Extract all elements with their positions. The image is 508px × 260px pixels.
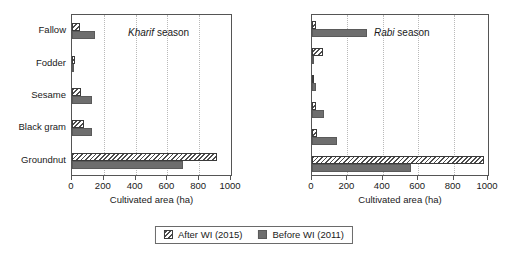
bar-before-wi — [72, 31, 95, 39]
bar-before-wi — [312, 137, 337, 145]
bar-before-wi — [312, 164, 411, 172]
y-tick-label: Black gram — [18, 123, 66, 133]
bar-before-wi — [312, 110, 324, 118]
bar-before-wi — [72, 128, 92, 136]
x-axis-kharif: 0 200 400 600 800 1000 Cultivated area (… — [71, 176, 232, 206]
panel-container: Fallow Fodder Sesame Black gram Groundnu… — [0, 0, 508, 215]
x-tick-label: 0 — [308, 181, 313, 191]
bar-before-wi — [312, 83, 316, 91]
x-tick-label: 400 — [127, 181, 143, 191]
plot-area-kharif: Kharif season — [71, 14, 232, 176]
plot-area-rabi: Rabi season — [311, 14, 489, 176]
y-tick-label: Groundnut — [21, 155, 66, 165]
bar-before-wi — [72, 161, 183, 169]
x-tick-label: 1000 — [219, 181, 240, 191]
x-axis-title: Cultivated area (ha) — [71, 195, 232, 205]
legend-swatch-solid-icon — [258, 230, 267, 239]
x-tick-label: 200 — [95, 181, 111, 191]
bars-rabi — [312, 15, 488, 175]
legend-swatch-hatched-icon — [164, 230, 173, 239]
legend-label: After WI (2015) — [178, 230, 242, 240]
bar-before-wi — [312, 56, 314, 64]
bar-before-wi — [312, 29, 367, 37]
chart-legend: After WI (2015) Before WI (2011) — [155, 226, 353, 244]
bar-before-wi — [72, 64, 74, 72]
x-tick-label: 200 — [338, 181, 354, 191]
x-tick-label: 800 — [190, 181, 206, 191]
bar-after-wi — [72, 153, 217, 161]
x-axis-rabi: 0 200 400 600 800 1000 Cultivated area (… — [311, 176, 489, 206]
panel-title-rabi: Rabi season — [374, 27, 430, 38]
y-axis-labels-kharif: Fallow Fodder Sesame Black gram Groundnu… — [0, 14, 70, 176]
panel-title-kharif: Kharif season — [128, 27, 189, 38]
y-tick-label: Fallow — [39, 25, 66, 35]
panel-title-emphasis: Kharif — [128, 27, 154, 38]
bars-kharif — [72, 15, 231, 175]
x-tick-label: 600 — [158, 181, 174, 191]
legend-entry-before-wi: Before WI (2011) — [258, 230, 344, 240]
x-tick-label: 1000 — [476, 181, 497, 191]
legend-label: Before WI (2011) — [272, 230, 344, 240]
bar-before-wi — [72, 96, 92, 104]
bar-after-wi — [72, 88, 81, 96]
y-tick-label: Sesame — [31, 90, 66, 100]
x-axis-title: Cultivated area (ha) — [311, 195, 489, 205]
bar-after-wi — [72, 23, 80, 31]
panel-kharif: Fallow Fodder Sesame Black gram Groundnu… — [0, 0, 254, 215]
x-tick-label: 800 — [445, 181, 461, 191]
x-tick-label: 0 — [68, 181, 73, 191]
x-tick-label: 400 — [374, 181, 390, 191]
y-tick-label: Fodder — [36, 58, 66, 68]
bar-after-wi — [72, 56, 75, 64]
figure-root: Fallow Fodder Sesame Black gram Groundnu… — [0, 0, 508, 260]
bar-after-wi — [72, 120, 84, 128]
panel-title-emphasis: Rabi — [374, 27, 395, 38]
panel-rabi: Fallow Barley Lentil Chickpea Mustard Wh… — [254, 0, 508, 215]
x-tick-label: 600 — [409, 181, 425, 191]
legend-entry-after-wi: After WI (2015) — [164, 230, 242, 240]
